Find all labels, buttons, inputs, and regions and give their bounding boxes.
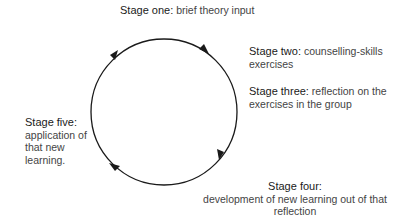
- stage-five-label: Stage five: application of that new lear…: [25, 116, 100, 166]
- stage-one-description: brief theory input: [176, 4, 254, 16]
- stage-two-label: Stage two: counselling-skills exercises: [249, 45, 399, 70]
- stage-five-description: application of that new learning.: [25, 129, 100, 167]
- arrow-icon-stage-one-to-two: [199, 44, 209, 54]
- stage-one-label: Stage one: brief theory input: [120, 4, 254, 17]
- stage-one-title: Stage one:: [120, 4, 173, 16]
- stage-two-title: Stage two:: [249, 45, 301, 57]
- stage-four-title: Stage four:: [190, 180, 400, 193]
- stage-four-label: Stage four: development of new learning …: [190, 180, 400, 218]
- stage-three-label: Stage three: reflection on the exercises…: [249, 85, 399, 110]
- arrow-icon-stage-five-to-one: [110, 50, 118, 60]
- stage-three-title: Stage three:: [249, 85, 309, 97]
- cycle-circle: [91, 39, 237, 185]
- stage-five-title: Stage five:: [25, 116, 100, 129]
- stage-four-description: development of new learning out of that …: [190, 193, 400, 218]
- learning-cycle-diagram: Stage one: brief theory input Stage two:…: [0, 0, 406, 221]
- arrow-icon-stage-four-to-five: [109, 163, 120, 171]
